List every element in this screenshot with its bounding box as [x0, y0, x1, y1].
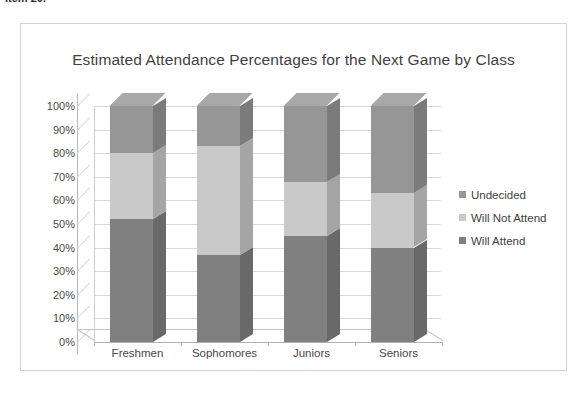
bar-segment[interactable] [284, 106, 327, 182]
bar-segment[interactable] [110, 219, 153, 342]
bar-column[interactable] [371, 24, 414, 372]
legend-item-label: Will Attend [471, 235, 525, 247]
x-axis-category-label: Juniors [267, 347, 357, 359]
bar-segment-side [240, 98, 253, 146]
y-axis-tick-label: 100% [31, 100, 75, 112]
bar-segment[interactable] [110, 106, 153, 153]
chart-legend: UndecidedWill Not AttendWill Attend [459, 183, 567, 252]
x-axis-category-label: Seniors [354, 347, 444, 359]
legend-item[interactable]: Will Not Attend [459, 206, 567, 229]
bar-segment[interactable] [284, 182, 327, 236]
bar-segment-face [284, 236, 327, 342]
bar-segment-face [284, 182, 327, 236]
x-axis-category-label: Freshmen [93, 347, 183, 359]
bar-segment-side [153, 98, 166, 153]
bar-segment-side [414, 98, 427, 193]
legend-item[interactable]: Undecided [459, 183, 567, 206]
figure-caption: Item 20. [5, 0, 125, 9]
legend-item-label: Undecided [471, 189, 526, 201]
gridline-depth-connector [77, 140, 91, 154]
bar-segment-side [414, 240, 427, 342]
gridline-depth-connector [77, 282, 91, 296]
bar-segment-face [110, 153, 153, 219]
legend-swatch-icon [459, 214, 466, 221]
bar-segment[interactable] [371, 106, 414, 193]
gridline-depth-connector [77, 117, 91, 131]
figure-caption-text: Item 20. [5, 0, 46, 4]
bar-segment[interactable] [110, 153, 153, 219]
bar-segment-face [197, 255, 240, 342]
y-axis-tick-label: 20% [31, 289, 75, 301]
bar-segment-side [240, 247, 253, 342]
legend-item[interactable]: Will Attend [459, 229, 567, 252]
bar-segment[interactable] [197, 106, 240, 146]
chart-container: Estimated Attendance Percentages for the… [20, 23, 567, 371]
gridline-depth-connector [77, 306, 91, 320]
bar-column[interactable] [110, 24, 153, 372]
x-axis-tick [355, 342, 356, 346]
y-axis-tick-label: 80% [31, 147, 75, 159]
bar-segment[interactable] [371, 193, 414, 247]
bar-segment-face [110, 106, 153, 153]
y-axis-tick-label: 40% [31, 242, 75, 254]
bar-column[interactable] [197, 24, 240, 372]
bar-segment-side [153, 211, 166, 342]
x-axis-tick [268, 342, 269, 346]
gridline-depth-connector [77, 188, 91, 202]
bar-segment[interactable] [197, 255, 240, 342]
legend-swatch-icon [459, 237, 466, 244]
bar-segment-face [197, 146, 240, 255]
bar-column[interactable] [284, 24, 327, 372]
legend-swatch-icon [459, 191, 466, 198]
floor-edge-right [425, 329, 443, 341]
bar-segment-face [371, 248, 414, 342]
x-axis-category-label: Sophomores [180, 347, 270, 359]
gridline-depth-connector [77, 211, 91, 225]
bar-segment-side [327, 228, 340, 342]
bar-segment-face [284, 106, 327, 182]
y-axis-tick-label: 10% [31, 312, 75, 324]
bar-segment-face [371, 193, 414, 247]
bar-segment-side [327, 98, 340, 182]
gridline-depth-connector [77, 258, 91, 272]
y-axis-tick-label: 50% [31, 218, 75, 230]
bar-segment-side [327, 173, 340, 235]
bar-segment-side [414, 185, 427, 247]
y-axis-tick-label: 30% [31, 265, 75, 277]
y-axis-tick-label: 70% [31, 171, 75, 183]
gridline-depth-connector [77, 235, 91, 249]
bar-segment[interactable] [197, 146, 240, 255]
legend-item-label: Will Not Attend [471, 212, 546, 224]
x-axis-tick [181, 342, 182, 346]
y-axis-tick-label: 0% [31, 336, 75, 348]
y-axis-tick-label: 90% [31, 124, 75, 136]
gridline-depth-connector [77, 93, 91, 107]
bar-segment[interactable] [371, 248, 414, 342]
bar-segment-face [110, 219, 153, 342]
gridline-depth-connector [77, 164, 91, 178]
y-axis-tick-label: 60% [31, 194, 75, 206]
bar-segment[interactable] [284, 236, 327, 342]
bar-segment-side [153, 145, 166, 219]
bar-segment-side [240, 138, 253, 255]
x-axis-tick [94, 342, 95, 346]
bar-segment-face [371, 106, 414, 193]
bar-segment-face [197, 106, 240, 146]
x-axis-tick [442, 342, 443, 346]
